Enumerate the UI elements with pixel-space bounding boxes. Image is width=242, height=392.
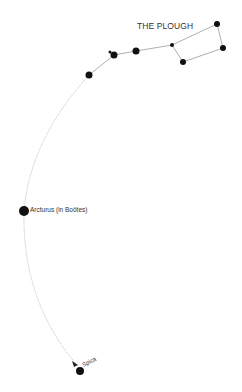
line-alioth-megrez: [136, 45, 172, 51]
line-phecda-megrez: [172, 45, 183, 62]
star-megrez: [170, 43, 174, 47]
line-merak-phecda: [183, 48, 223, 62]
arc-to-arcturus-and-spica: [24, 75, 89, 364]
star-alkaid: [86, 72, 93, 79]
star-arcturus: [19, 206, 29, 216]
plough-diagram: [0, 0, 242, 392]
line-dubhe-merak: [217, 24, 223, 48]
arcturus-label: Arcturus (in Boötes): [30, 206, 87, 213]
diagram-title: THE PLOUGH: [137, 21, 193, 31]
arrow-head-icon: [72, 361, 78, 367]
star-spica: [76, 367, 84, 375]
star-alioth: [133, 48, 140, 55]
line-alkaid-mizar: [89, 55, 114, 75]
star-mizar: [111, 52, 118, 59]
stars: [19, 21, 226, 375]
star-dubhe: [214, 21, 220, 27]
constellation-lines: [89, 24, 223, 75]
star-phecda: [180, 59, 186, 65]
star-alcor: [109, 51, 112, 54]
star-merak: [220, 45, 226, 51]
